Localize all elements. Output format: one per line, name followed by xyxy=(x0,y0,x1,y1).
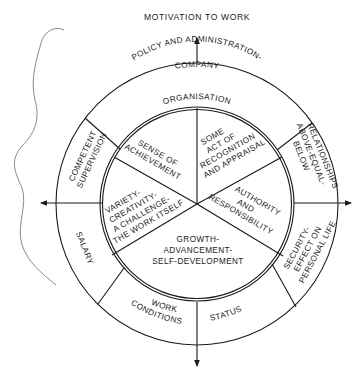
svg-text:ADVANCEMENT-: ADVANCEMENT- xyxy=(163,246,232,255)
svg-text:COMPANY: COMPANY xyxy=(174,60,220,71)
segment-security: SECURITY- EFFECT ON PERSONAL LIFE xyxy=(280,210,338,285)
sector-authority: AUTHORITY AND RESPONSIBILITY xyxy=(207,175,285,237)
segment-status: STATUS xyxy=(209,304,243,323)
sector-growth: GROWTH- ADVANCEMENT- SELF-DEVELOPMENT xyxy=(152,235,243,266)
svg-text:SALARY: SALARY xyxy=(74,230,95,266)
svg-text:GROWTH-: GROWTH- xyxy=(177,235,220,244)
segment-salary: SALARY xyxy=(74,230,95,266)
svg-text:STATUS: STATUS xyxy=(209,304,243,323)
motivation-to-work-diagram: MOTIVATION TO WORK COMPANY POLICY AND AD… xyxy=(0,0,364,374)
svg-text:SELF-DEVELOPMENT: SELF-DEVELOPMENT xyxy=(152,257,243,266)
diagram-title: MOTIVATION TO WORK xyxy=(144,12,250,22)
segment-work-conditions: WORK CONDITIONS xyxy=(129,298,183,326)
sector-recognition: SOME ACT OF RECOGNITION AND APPRAISAL xyxy=(187,111,267,180)
svg-text:ORGANISATION: ORGANISATION xyxy=(162,92,232,106)
sector-sense-of-achievement: SENSE OF ACHIEVEMENT xyxy=(123,133,188,181)
segment-relationships: RELATIONSHIPS ABOVE-EQUAL- BELOW xyxy=(285,118,340,198)
decorative-squiggle xyxy=(14,28,64,285)
sector-variety: VARIETY- CREATIVITY- A CHALLENGE- THE WO… xyxy=(97,172,186,246)
segment-competent-supervision: COMPETENT SUPERVISION xyxy=(66,127,109,190)
